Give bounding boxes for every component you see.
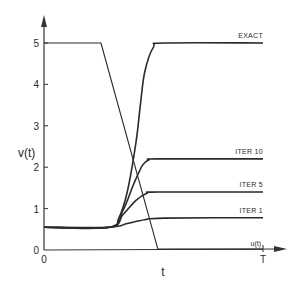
series-line-exact <box>44 43 263 228</box>
y-tick-label: 1 <box>33 204 39 215</box>
y-tick-label: 3 <box>33 121 39 132</box>
y-tick-label: 2 <box>33 162 39 173</box>
x-axis-label: t <box>161 265 165 279</box>
y-tick-label: 4 <box>33 79 39 90</box>
series-labels: EXACTITER 10ITER 5ITER 1u(t) <box>235 32 263 248</box>
series-label-iter-5: ITER 5 <box>239 181 263 188</box>
x-tick-label: T <box>260 254 266 265</box>
y-tick-label: 0 <box>33 245 39 256</box>
y-tick-label: 5 <box>33 38 39 49</box>
series-lines <box>44 43 263 249</box>
x-tick-label: 0 <box>41 254 47 265</box>
chart-figure: 0123450Tv(t)t EXACTITER 10ITER 5ITER 1u(… <box>0 0 298 291</box>
x-axis-arrow-icon <box>274 246 287 252</box>
series-line-iter-1 <box>44 218 263 228</box>
y-axis-label: v(t) <box>18 146 35 160</box>
series-label-u-t: u(t) <box>251 240 262 248</box>
series-line-iter-5 <box>44 192 263 228</box>
series-label-exact: EXACT <box>238 32 263 39</box>
line-chart: 0123450Tv(t)t EXACTITER 10ITER 5ITER 1u(… <box>0 0 298 291</box>
series-label-iter-1: ITER 1 <box>239 207 263 214</box>
y-axis-arrow-icon <box>41 15 47 27</box>
series-label-iter-10: ITER 10 <box>235 148 263 155</box>
